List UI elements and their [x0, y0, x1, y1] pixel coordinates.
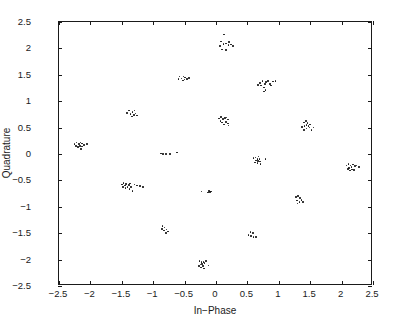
x-axis-tick: [122, 21, 123, 25]
scatter-point: [258, 156, 260, 158]
scatter-point: [134, 110, 136, 112]
scatter-point: [134, 184, 136, 186]
x-axis-tick: [342, 281, 343, 285]
y-tick-label: 0: [26, 148, 31, 159]
scatter-point: [303, 129, 305, 131]
scatter-point: [129, 188, 131, 190]
scatter-point: [295, 196, 297, 198]
scatter-point: [162, 153, 164, 155]
scatter-point: [275, 80, 277, 82]
scatter-point: [311, 129, 313, 131]
scatter-point: [254, 162, 256, 164]
x-tick-label: 2: [338, 288, 343, 299]
y-axis-tick: [368, 128, 372, 129]
scatter-point: [223, 43, 225, 45]
scatter-point: [220, 41, 222, 43]
y-axis-tick: [58, 48, 62, 49]
scatter-point: [184, 79, 186, 81]
scatter-point: [259, 82, 261, 84]
y-axis-tick: [368, 154, 372, 155]
scatter-point: [221, 49, 223, 51]
scatter-point: [272, 81, 274, 83]
scatter-point: [265, 158, 267, 160]
scatter-point: [228, 41, 230, 43]
scatter-point: [142, 186, 144, 188]
scatter-point: [219, 45, 221, 47]
y-axis-tick: [58, 180, 62, 181]
scatter-point: [205, 260, 207, 262]
scatter-point: [182, 80, 184, 82]
y-axis-tick: [368, 180, 372, 181]
scatter-point: [347, 168, 349, 170]
x-axis-tick: [185, 21, 186, 25]
scatter-point: [86, 143, 88, 145]
scatter-point: [164, 227, 166, 229]
scatter-point: [252, 232, 254, 234]
scatter-point: [232, 45, 234, 47]
y-tick-label: −0.5: [12, 174, 31, 185]
scatter-point: [202, 265, 204, 267]
x-axis-tick: [216, 281, 217, 285]
scatter-point: [309, 127, 311, 129]
scatter-point: [297, 203, 299, 205]
scatter-point: [265, 89, 267, 91]
scatter-point: [123, 182, 125, 184]
scatter-point: [136, 115, 138, 117]
x-tick-label: 0.5: [240, 288, 253, 299]
scatter-point: [128, 110, 130, 112]
x-axis-tick: [59, 281, 60, 285]
constellation-figure: −2.5−2−1.5−1−0.500.511.522.5−2.5−2−1.5−1…: [0, 0, 409, 328]
scatter-point: [165, 153, 167, 155]
scatter-point: [163, 230, 165, 232]
scatter-point: [302, 201, 304, 203]
x-axis-tick: [90, 281, 91, 285]
scatter-point: [221, 122, 223, 124]
scatter-point: [128, 184, 130, 186]
x-tick-label: −2.5: [49, 288, 68, 299]
scatter-point: [179, 76, 181, 78]
x-axis-tick: [247, 281, 248, 285]
scatter-point: [228, 44, 230, 46]
scatter-point: [135, 113, 137, 115]
scatter-point: [307, 122, 309, 124]
scatter-point: [208, 265, 210, 267]
y-axis-tick: [58, 260, 62, 261]
scatter-point: [208, 190, 210, 192]
scatter-point: [250, 235, 252, 237]
y-tick-label: −2: [20, 253, 31, 264]
y-tick-label: −1: [20, 200, 31, 211]
scatter-point: [198, 265, 200, 267]
scatter-point: [75, 145, 77, 147]
y-axis-tick: [58, 233, 62, 234]
scatter-point: [76, 142, 78, 144]
scatter-point: [132, 111, 134, 113]
y-tick-label: 1: [26, 95, 31, 106]
y-axis-tick: [368, 22, 372, 23]
scatter-points-layer: [59, 22, 371, 284]
scatter-point: [167, 231, 169, 233]
scatter-point: [79, 145, 81, 147]
x-axis-tick: [310, 21, 311, 25]
scatter-point: [139, 185, 141, 187]
x-axis-tick: [185, 281, 186, 285]
scatter-point: [255, 236, 257, 238]
scatter-point: [77, 146, 79, 148]
scatter-point: [125, 183, 127, 185]
scatter-point: [259, 161, 261, 163]
scatter-point: [133, 114, 135, 116]
x-axis-tick: [153, 21, 154, 25]
scatter-point: [127, 186, 129, 188]
x-tick-label: −2: [84, 288, 95, 299]
scatter-point: [165, 232, 167, 234]
plot-area: [58, 21, 372, 285]
y-axis-tick: [368, 233, 372, 234]
scatter-point: [227, 123, 229, 125]
scatter-point: [130, 186, 132, 188]
y-tick-label: −2.5: [12, 280, 31, 291]
scatter-point: [299, 201, 301, 203]
scatter-point: [260, 85, 262, 87]
y-tick-label: 0.5: [18, 121, 31, 132]
y-axis-tick: [58, 207, 62, 208]
scatter-point: [131, 116, 133, 118]
scatter-point: [204, 262, 206, 264]
